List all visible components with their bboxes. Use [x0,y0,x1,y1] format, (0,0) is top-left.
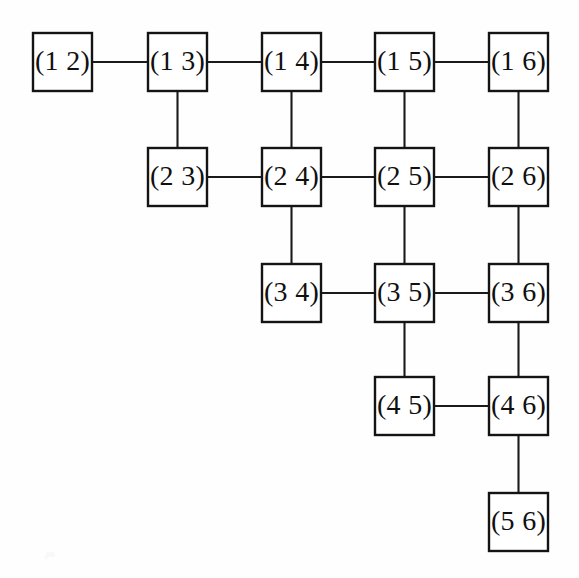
node-label-n46: (4 6) [491,389,546,420]
node-n13[interactable]: (1 3) [148,33,207,91]
node-n15[interactable]: (1 5) [375,33,434,91]
node-label-n45: (4 5) [377,389,432,420]
node-n45[interactable]: (4 5) [375,377,434,435]
node-n12[interactable]: (1 2) [33,33,92,91]
node-label-n35: (3 5) [377,276,432,307]
node-label-n12: (1 2) [35,45,90,76]
node-n26[interactable]: (2 6) [489,148,548,206]
node-n46[interactable]: (4 6) [489,377,548,435]
node-n16[interactable]: (1 6) [489,33,548,91]
node-n34[interactable]: (3 4) [262,264,321,322]
node-n23[interactable]: (2 3) [148,148,207,206]
node-n25[interactable]: (2 5) [375,148,434,206]
node-n56[interactable]: (5 6) [489,493,548,551]
node-label-n56: (5 6) [491,505,546,536]
node-label-n16: (1 6) [491,45,546,76]
lattice-diagram: (1 2)(1 3)(1 4)(1 5)(1 6)(2 3)(2 4)(2 5)… [0,0,579,578]
node-label-n36: (3 6) [491,276,546,307]
node-n35[interactable]: (3 5) [375,264,434,322]
node-label-n25: (2 5) [377,160,432,191]
node-label-n13: (1 3) [150,45,205,76]
node-n36[interactable]: (3 6) [489,264,548,322]
node-label-n14: (1 4) [264,45,319,76]
node-n14[interactable]: (1 4) [262,33,321,91]
node-label-n34: (3 4) [264,276,319,307]
node-label-n23: (2 3) [150,160,205,191]
node-label-n26: (2 6) [491,160,546,191]
node-label-n24: (2 4) [264,160,319,191]
node-label-n15: (1 5) [377,45,432,76]
node-n24[interactable]: (2 4) [262,148,321,206]
diagram-canvas: (1 2)(1 3)(1 4)(1 5)(1 6)(2 3)(2 4)(2 5)… [0,0,579,578]
